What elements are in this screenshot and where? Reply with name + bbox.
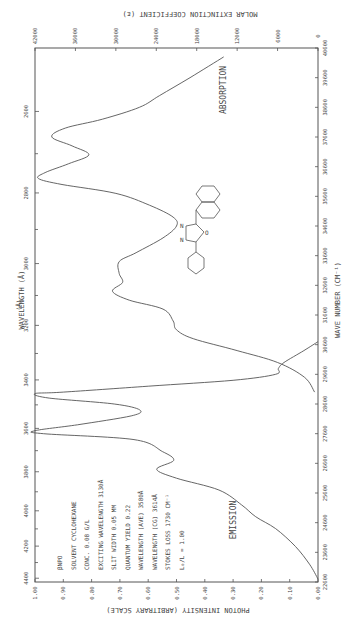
intensity-tick-label: 0.60 xyxy=(145,586,151,599)
intensity-tick-label: 0.70 xyxy=(117,586,123,599)
wavelength-tick-label: 2800 xyxy=(23,186,29,199)
oxadiazole-ring xyxy=(186,224,204,242)
wave-number-axis: 4060039600386003760036600356003460033600… xyxy=(315,40,328,591)
intensity-tick-label: 0.50 xyxy=(174,586,180,599)
extinction-tick-label: 36000 xyxy=(72,28,78,45)
oxygen-atom: O xyxy=(205,229,209,236)
annotation-line: WAVELENGTH (CG) 3614Å xyxy=(151,494,158,570)
wave-number-tick-label: 31600 xyxy=(322,307,328,324)
spectrum-chart: 4060039600386003760036600356003460033600… xyxy=(0,0,350,620)
wave-number-tick-label: 23600 xyxy=(322,544,328,561)
extinction-axis-title: MOLAR EXTINCTION COEFFICIENT (ε) xyxy=(123,10,258,18)
intensity-tick-label: 0.00 xyxy=(315,586,321,599)
annotation-line: SOLVENT CYCLOHEXANE xyxy=(70,501,77,570)
annotation-line: QUANTUM YIELD 0.22 xyxy=(124,505,131,570)
intensity-tick-label: 0.20 xyxy=(258,586,264,599)
annotation-line: SLIT WIDTH 0.05 MM xyxy=(110,505,117,570)
nitrogen-atom-2: N xyxy=(180,236,184,243)
wavelength-tick-label: 4000 xyxy=(23,504,29,517)
wave-number-tick-label: 35600 xyxy=(322,188,328,205)
wavelength-tick-label: 3600 xyxy=(23,422,29,435)
wave-number-tick-label: 34600 xyxy=(322,218,328,235)
intensity-tick-label: 0.30 xyxy=(230,586,236,599)
extinction-tick-label: 0 xyxy=(315,34,321,37)
wave-number-tick-label: 30600 xyxy=(322,336,328,353)
wave-number-tick-label: 24600 xyxy=(322,514,328,531)
annotation-block: βNPOSOLVENT CYCLOHEXANECONC. 0.08 G/LEXC… xyxy=(56,479,185,570)
wave-number-tick-label: 25600 xyxy=(322,485,328,502)
intensity-tick-label: 0.80 xyxy=(89,586,95,599)
extinction-tick-label: 6000 xyxy=(275,29,281,42)
wave-number-tick-label: 32600 xyxy=(322,277,328,294)
wave-number-tick-label: 39600 xyxy=(322,69,328,86)
extinction-tick-label: 24000 xyxy=(153,28,159,45)
annotation-line: CONC. 0.08 G/L xyxy=(83,519,90,570)
wave-number-tick-label: 27600 xyxy=(322,425,328,442)
wavelength-tick-label: 3400 xyxy=(23,373,29,386)
wave-number-tick-label: 37600 xyxy=(322,129,328,146)
naphthalene-ring-a xyxy=(196,186,220,202)
nitrogen-atom-1: N xyxy=(180,222,184,229)
emission-label: EMISSION xyxy=(229,501,238,540)
absorption-label: ABSORPTION xyxy=(219,66,228,114)
wavelength-axis-title: WAVELENGTH (Å) xyxy=(17,270,26,329)
intensity-tick-label: 1.00 xyxy=(32,586,38,599)
wave-number-tick-label: 22600 xyxy=(322,574,328,591)
wavelength-tick-label: 4200 xyxy=(23,539,29,552)
annotation-line: βNPO xyxy=(56,555,64,570)
wave-number-tick-label: 26600 xyxy=(322,455,328,472)
wave-number-tick-label: 29600 xyxy=(322,366,328,383)
intensity-tick-label: 0.90 xyxy=(60,586,66,599)
annotation-line: STOKES LOSS 1730 CM⁻¹ xyxy=(164,494,171,570)
wave-number-tick-label: 28600 xyxy=(322,396,328,413)
intensity-tick-label: 0.40 xyxy=(202,586,208,599)
wave-number-title-text: WAVE NUMBER (CM⁻¹) xyxy=(334,262,342,338)
phenyl-ring xyxy=(188,252,204,274)
extinction-tick-label: 12000 xyxy=(234,28,240,45)
wavelength-tick-label: 4400 xyxy=(23,572,29,585)
plot-frame xyxy=(35,48,318,582)
annotation-line: EXCITING WAVELENGTH 3130Å xyxy=(97,479,104,570)
wave-number-axis-title: WAVE NUMBER (CM⁻¹) xyxy=(334,262,342,338)
wavelength-tick-label: 2600 xyxy=(23,105,29,118)
extinction-tick-label: 30000 xyxy=(113,28,119,45)
intensity-axis-title: PHOTON INTENSITY (ARBITRARY SCALE) xyxy=(106,606,249,614)
naphthalene-ring-b xyxy=(196,202,220,218)
intensity-tick-label: 0.10 xyxy=(287,586,293,599)
extinction-tick-label: 42000 xyxy=(32,28,38,45)
annotation-line: WAVELENGTH (AVE) 3580Å xyxy=(137,490,144,570)
wave-number-tick-label: 36600 xyxy=(322,158,328,175)
wave-number-tick-label: 40600 xyxy=(322,40,328,57)
extinction-tick-label: 18000 xyxy=(194,28,200,45)
wavelength-tick-label: 3000 xyxy=(23,257,29,270)
wave-number-tick-label: 38600 xyxy=(322,99,328,116)
wavelength-tick-label: 3800 xyxy=(23,465,29,478)
annotation-line: L₀/L = 1.00 xyxy=(178,530,185,570)
wave-number-tick-label: 33600 xyxy=(322,247,328,264)
absorption-curve xyxy=(38,57,315,392)
molecule-structure: O N N xyxy=(180,186,220,274)
